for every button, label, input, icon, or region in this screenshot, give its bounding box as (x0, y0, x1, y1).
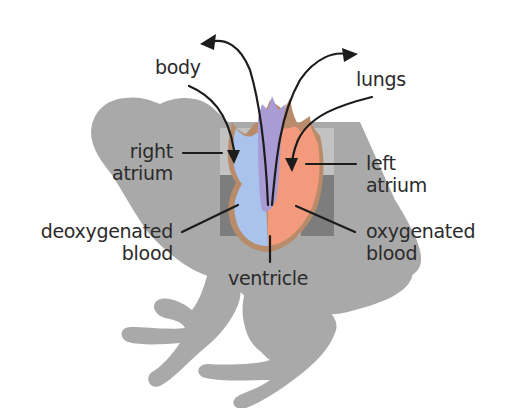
label-right-atrium-line2: atrium (110, 162, 173, 184)
label-deoxygenated-blood: deoxygenated blood (30, 220, 173, 264)
arrowhead-lungs (342, 48, 358, 62)
label-left-atrium-line1: left (366, 152, 427, 174)
label-right-atrium: right atrium (110, 140, 173, 184)
label-ventricle: ventricle (228, 267, 308, 289)
label-body: body (155, 56, 201, 78)
label-left-atrium-line2: atrium (366, 174, 427, 196)
label-oxygenated-line1: oxygenated (366, 220, 475, 242)
label-oxygenated-line2: blood (366, 242, 475, 264)
diagram-graphic (0, 0, 511, 408)
label-left-atrium: left atrium (366, 152, 427, 196)
label-right-atrium-line1: right (110, 140, 173, 162)
label-deoxygenated-line1: deoxygenated (30, 220, 173, 242)
label-oxygenated-blood: oxygenated blood (366, 220, 475, 264)
arrowhead-body (200, 34, 216, 50)
label-lungs: lungs (356, 68, 406, 90)
frog-heart-diagram: body lungs right atrium left atrium deox… (0, 0, 511, 408)
label-deoxygenated-line2: blood (30, 242, 173, 264)
